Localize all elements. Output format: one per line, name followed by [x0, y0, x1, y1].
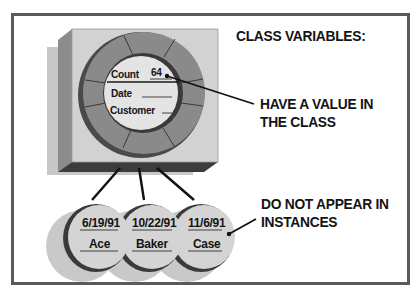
callout-instances-line2: INSTANCES: [261, 213, 337, 231]
cube-bottom: [58, 162, 218, 172]
instance-ace-customer: Ace: [89, 235, 110, 253]
field-count-value: 64: [151, 63, 162, 81]
instance-case-customer: Case: [193, 235, 220, 253]
callout-instances-line1: DO NOT APPEAR IN: [261, 195, 389, 213]
instance-ace-date: 6/19/91: [82, 214, 120, 232]
field-count-label: Count: [111, 65, 139, 83]
field-customer-label: Customer: [110, 101, 155, 119]
field-date-label: Date: [111, 84, 132, 102]
callout-class-line2: THE CLASS: [260, 113, 336, 131]
cube-side: [58, 29, 72, 172]
callout-class-line1: HAVE A VALUE IN: [260, 95, 373, 113]
title: CLASS VARIABLES:: [236, 27, 366, 45]
instance-baker-customer: Baker: [136, 235, 168, 253]
instance-baker-date: 10/22/91: [132, 214, 176, 232]
instance-case-date: 11/6/91: [188, 214, 225, 232]
